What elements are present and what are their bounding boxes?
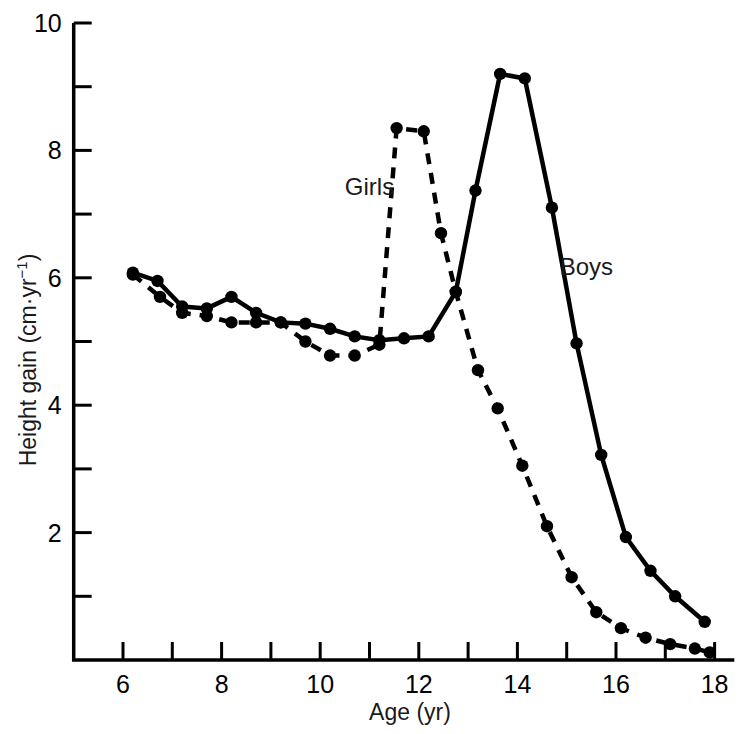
data-point-marker bbox=[390, 122, 402, 134]
data-point-marker bbox=[324, 349, 336, 361]
data-point-marker bbox=[225, 316, 237, 328]
y-tick-label: 8 bbox=[48, 136, 62, 164]
y-axis-title: Height gain (cm·yr−1) bbox=[13, 254, 41, 467]
data-point-marker bbox=[669, 590, 681, 602]
data-point-marker bbox=[516, 460, 528, 472]
data-point-marker bbox=[494, 68, 506, 80]
data-point-marker bbox=[615, 622, 627, 634]
data-point-marker bbox=[398, 332, 410, 344]
x-axis-title-text: Age (yr) bbox=[369, 699, 451, 725]
data-point-marker bbox=[422, 330, 434, 342]
data-point-marker bbox=[703, 646, 715, 658]
data-point-marker bbox=[541, 520, 553, 532]
height-velocity-chart: 681012141618 246810 GirlsBoys Age (yr) H… bbox=[0, 0, 741, 734]
data-point-marker bbox=[664, 638, 676, 650]
data-point-marker bbox=[699, 616, 711, 628]
data-point-marker bbox=[154, 291, 166, 303]
data-point-marker bbox=[151, 275, 163, 287]
data-point-marker bbox=[546, 202, 558, 214]
data-point-marker bbox=[620, 531, 632, 543]
data-point-marker bbox=[176, 300, 188, 312]
data-point-marker bbox=[644, 565, 656, 577]
data-point-marker bbox=[595, 449, 607, 461]
chart-canvas: 681012141618 246810 GirlsBoys Age (yr) H… bbox=[0, 0, 741, 734]
data-point-marker bbox=[324, 323, 336, 335]
x-tick-label: 12 bbox=[405, 670, 433, 698]
series-line-girls bbox=[133, 128, 710, 652]
data-point-marker bbox=[275, 316, 287, 328]
data-point-marker bbox=[299, 317, 311, 329]
data-point-marker bbox=[201, 302, 213, 314]
data-point-marker bbox=[225, 291, 237, 303]
series-boys bbox=[127, 68, 711, 628]
data-point-marker bbox=[590, 606, 602, 618]
data-point-marker bbox=[565, 571, 577, 583]
y-tick-label: 6 bbox=[48, 264, 62, 292]
data-point-marker bbox=[519, 72, 531, 84]
data-series bbox=[127, 68, 716, 659]
x-tick-label: 10 bbox=[306, 670, 334, 698]
x-tick-label: 18 bbox=[701, 670, 729, 698]
x-tick-label: 8 bbox=[215, 670, 229, 698]
y-tick-label: 4 bbox=[48, 391, 62, 419]
x-tick-label: 14 bbox=[503, 670, 531, 698]
y-tick-label: 10 bbox=[34, 9, 62, 37]
y-tick-label: 2 bbox=[48, 519, 62, 547]
data-point-marker bbox=[250, 307, 262, 319]
data-point-marker bbox=[469, 184, 481, 196]
x-tick-label: 6 bbox=[116, 670, 130, 698]
series-girls bbox=[127, 122, 716, 659]
data-point-marker bbox=[491, 402, 503, 414]
data-point-marker bbox=[639, 632, 651, 644]
data-point-marker bbox=[689, 642, 701, 654]
series-label-boys: Boys bbox=[560, 253, 613, 280]
data-point-marker bbox=[570, 337, 582, 349]
data-point-marker bbox=[349, 330, 361, 342]
data-point-marker bbox=[373, 334, 385, 346]
series-label-girls: Girls bbox=[345, 173, 394, 200]
data-point-marker bbox=[418, 125, 430, 137]
axis-ticks bbox=[74, 23, 715, 660]
x-tick-labels: 681012141618 bbox=[116, 670, 728, 698]
series-line-boys bbox=[133, 74, 705, 622]
data-point-marker bbox=[299, 335, 311, 347]
data-point-marker bbox=[435, 227, 447, 239]
y-axis-title-text: Height gain (cm·yr−1) bbox=[13, 254, 41, 467]
data-point-marker bbox=[450, 286, 462, 298]
data-point-marker bbox=[472, 364, 484, 376]
data-point-marker bbox=[349, 349, 361, 361]
data-point-marker bbox=[127, 267, 139, 279]
x-tick-label: 16 bbox=[602, 670, 630, 698]
x-axis-title: Age (yr) bbox=[369, 699, 451, 725]
